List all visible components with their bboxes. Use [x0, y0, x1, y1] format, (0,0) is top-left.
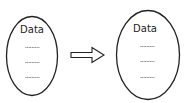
diagram-canvas: Data ········· ········· ········· Data …	[0, 0, 191, 103]
right-node-title: Data	[133, 23, 157, 34]
arrow-right-icon	[71, 48, 104, 63]
left-data-node: Data ········· ········· ·········	[7, 17, 58, 96]
right-node-row-1: ·········	[140, 43, 155, 51]
right-node-row-3: ·········	[140, 74, 155, 82]
right-node-row-2: ·········	[140, 58, 155, 66]
left-node-row-1: ·········	[25, 44, 40, 52]
left-node-row-3: ·········	[25, 74, 40, 82]
right-data-node: Data ········· ········· ·········	[117, 11, 180, 100]
left-node-row-2: ·········	[25, 59, 40, 67]
left-node-title: Data	[20, 24, 44, 35]
